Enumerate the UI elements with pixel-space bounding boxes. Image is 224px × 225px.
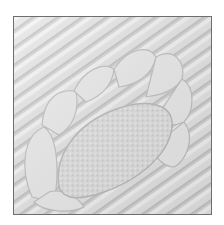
quilt-texture	[14, 17, 211, 214]
quilt-photo	[13, 16, 212, 215]
